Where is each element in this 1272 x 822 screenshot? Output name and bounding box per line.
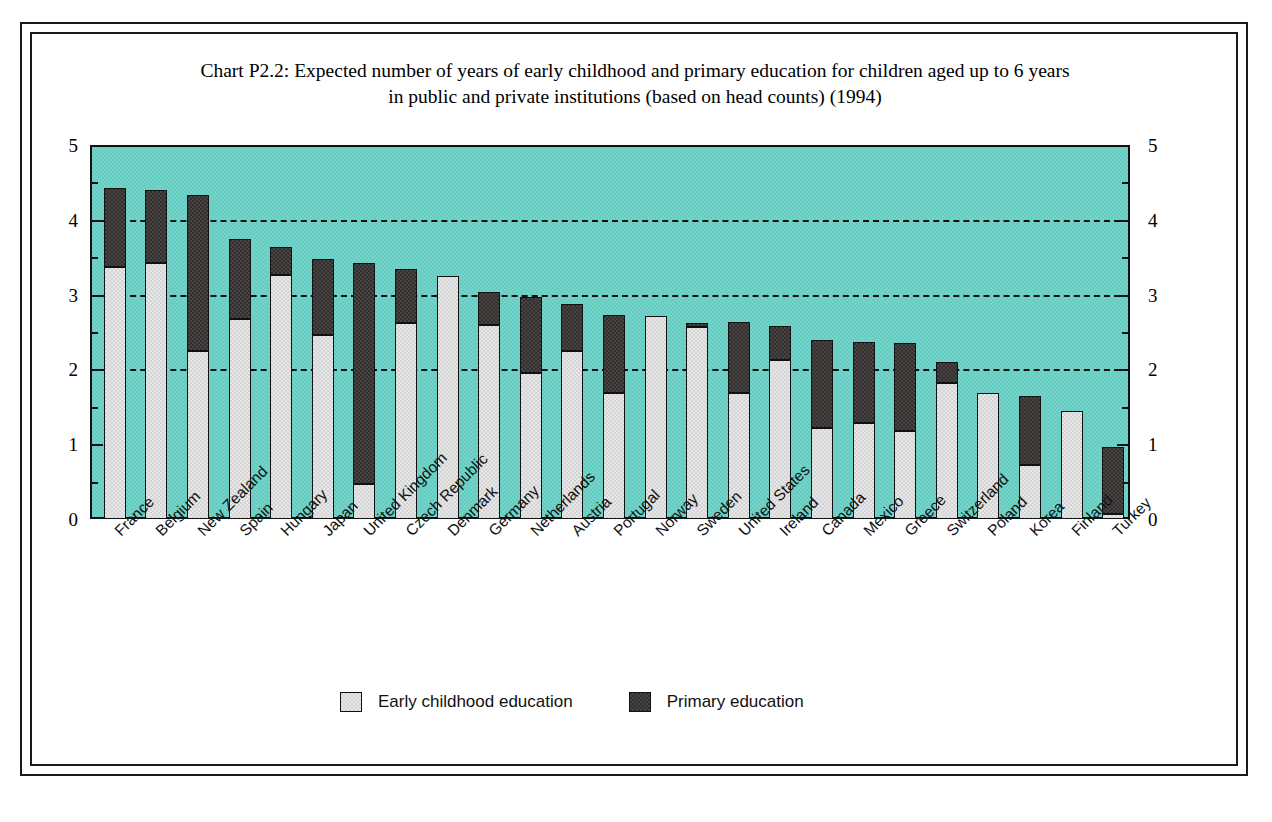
y-axis-left-label-0: 0 xyxy=(52,510,78,529)
bar-column[interactable] xyxy=(603,145,625,519)
y-axis-right-label-2: 2 xyxy=(1148,360,1174,379)
legend-swatch-icon xyxy=(340,692,362,712)
bar-segment-primary[interactable] xyxy=(478,292,500,325)
tick-left-0.5 xyxy=(90,482,98,484)
bar-segment-primary[interactable] xyxy=(353,263,375,484)
y-axis-left-label-5: 5 xyxy=(52,136,78,155)
legend-swatch-icon xyxy=(629,692,651,712)
bar-segment-primary[interactable] xyxy=(894,343,916,431)
bar-segment-early-childhood[interactable] xyxy=(1061,411,1083,519)
y-axis-right-label-4: 4 xyxy=(1148,211,1174,230)
bar-column[interactable] xyxy=(395,145,417,519)
chart-legend: Early childhood educationPrimary educati… xyxy=(340,692,804,712)
bar-column[interactable] xyxy=(312,145,334,519)
bar-segment-primary[interactable] xyxy=(229,239,251,319)
bar-column[interactable] xyxy=(769,145,791,519)
bar-segment-early-childhood[interactable] xyxy=(270,275,292,519)
chart-title-line-1: Chart P2.2: Expected number of years of … xyxy=(60,58,1210,84)
tick-left-2 xyxy=(90,369,103,371)
y-axis-right-label-0: 0 xyxy=(1148,510,1174,529)
bar-segment-primary[interactable] xyxy=(1019,396,1041,466)
bar-segment-primary[interactable] xyxy=(811,340,833,428)
bar-segment-primary[interactable] xyxy=(769,326,791,360)
tick-left-1.5 xyxy=(90,407,98,409)
bar-column[interactable] xyxy=(187,145,209,519)
bar-column[interactable] xyxy=(1019,145,1041,519)
bar-column[interactable] xyxy=(270,145,292,519)
bar-segment-primary[interactable] xyxy=(520,297,542,373)
bar-column[interactable] xyxy=(1061,145,1083,519)
bar-column[interactable] xyxy=(353,145,375,519)
chart-title-line-2: in public and private institutions (base… xyxy=(60,84,1210,110)
tick-left-3 xyxy=(90,295,103,297)
bar-column[interactable] xyxy=(229,145,251,519)
tick-left-1 xyxy=(90,444,103,446)
bar-column[interactable] xyxy=(686,145,708,519)
bar-column[interactable] xyxy=(811,145,833,519)
plot-wrapper xyxy=(90,145,1130,519)
bar-segment-primary[interactable] xyxy=(853,342,875,424)
y-axis-right-label-5: 5 xyxy=(1148,136,1174,155)
tick-left-4 xyxy=(90,220,103,222)
tick-left-3.5 xyxy=(90,257,98,259)
bar-segment-early-childhood[interactable] xyxy=(145,263,167,519)
bar-column[interactable] xyxy=(520,145,542,519)
bar-segment-primary[interactable] xyxy=(270,247,292,275)
bar-column[interactable] xyxy=(645,145,667,519)
bar-segment-primary[interactable] xyxy=(312,259,334,335)
bar-column[interactable] xyxy=(894,145,916,519)
tick-left-4.5 xyxy=(90,182,98,184)
legend-entry[interactable]: Primary education xyxy=(629,692,804,712)
y-axis-left-label-3: 3 xyxy=(52,286,78,305)
y-axis-left-label-2: 2 xyxy=(52,360,78,379)
bar-segment-primary[interactable] xyxy=(187,195,209,351)
bar-segment-primary[interactable] xyxy=(936,362,958,383)
bar-segment-primary[interactable] xyxy=(561,304,583,350)
bar-column[interactable] xyxy=(728,145,750,519)
bar-column[interactable] xyxy=(561,145,583,519)
bar-column[interactable] xyxy=(977,145,999,519)
bar-segment-primary[interactable] xyxy=(145,190,167,263)
bar-column[interactable] xyxy=(936,145,958,519)
legend-entry[interactable]: Early childhood education xyxy=(340,692,573,712)
legend-label: Early childhood education xyxy=(378,692,573,712)
tick-left-2.5 xyxy=(90,332,98,334)
legend-label: Primary education xyxy=(667,692,804,712)
bar-segment-primary[interactable] xyxy=(104,188,126,267)
bar-column[interactable] xyxy=(104,145,126,519)
bar-segment-primary[interactable] xyxy=(603,315,625,394)
bar-segment-primary[interactable] xyxy=(686,323,708,327)
chart-title: Chart P2.2: Expected number of years of … xyxy=(60,58,1210,110)
y-axis-right-label-1: 1 xyxy=(1148,435,1174,454)
y-axis-left-label-4: 4 xyxy=(52,211,78,230)
bar-column[interactable] xyxy=(1102,145,1124,519)
y-axis-left-label-1: 1 xyxy=(52,435,78,454)
bar-segment-early-childhood[interactable] xyxy=(104,267,126,519)
bar-column[interactable] xyxy=(145,145,167,519)
bar-segment-primary[interactable] xyxy=(728,322,750,393)
bar-segment-primary[interactable] xyxy=(395,269,417,323)
bar-column[interactable] xyxy=(853,145,875,519)
y-axis-right-label-3: 3 xyxy=(1148,286,1174,305)
